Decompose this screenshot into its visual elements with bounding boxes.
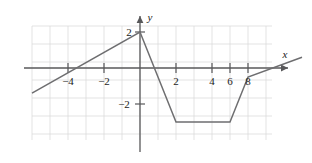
- y-tick-label-neg2: −2: [118, 98, 130, 110]
- x-axis-arrowhead: [281, 65, 288, 72]
- y-axis-arrowhead: [137, 16, 144, 23]
- x-tick-label-8: 8: [245, 75, 251, 87]
- x-axis-label: x: [282, 48, 288, 60]
- x-tick-label-neg4: −4: [62, 75, 74, 87]
- coordinate-plane-svg: −4 −2 2 4 6 8 2 −2 y x: [0, 0, 312, 163]
- x-tick-label-neg2: −2: [98, 75, 110, 87]
- x-tick-label-2: 2: [173, 75, 179, 87]
- graph-figure: −4 −2 2 4 6 8 2 −2 y x: [0, 0, 312, 163]
- y-tick-label-2: 2: [126, 26, 132, 38]
- x-tick-label-6: 6: [227, 75, 233, 87]
- x-tick-label-4: 4: [209, 75, 215, 87]
- y-axis-label: y: [147, 11, 153, 23]
